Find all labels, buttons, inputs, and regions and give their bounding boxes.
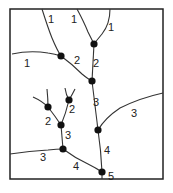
order-label: 2 bbox=[74, 54, 80, 66]
order-label: 3 bbox=[40, 151, 46, 163]
junction-node bbox=[98, 168, 105, 175]
order-label: 1 bbox=[48, 13, 54, 25]
order-label: 2 bbox=[93, 57, 99, 69]
order-label: 1 bbox=[24, 57, 30, 69]
stream-order-diagram: 1 1 1 1 2 2 3 3 2 2 3 4 3 4 5 bbox=[0, 0, 173, 193]
junction-node bbox=[59, 145, 66, 152]
order-label: 1 bbox=[108, 21, 114, 33]
order-label: 1 bbox=[71, 13, 77, 25]
order-label: 4 bbox=[73, 160, 79, 172]
order-label: 2 bbox=[45, 115, 51, 127]
junction-node bbox=[94, 126, 101, 133]
junction-node bbox=[90, 40, 97, 47]
junction-node bbox=[57, 121, 64, 128]
order-label: 2 bbox=[69, 103, 75, 115]
order-labels: 1 1 1 1 2 2 3 3 2 2 3 4 3 4 5 bbox=[24, 13, 137, 182]
order-label: 3 bbox=[131, 107, 137, 119]
order-label: 3 bbox=[93, 96, 99, 108]
order-label: 5 bbox=[108, 170, 114, 182]
boundary-frame bbox=[10, 9, 163, 179]
junction-node bbox=[44, 103, 51, 110]
order-label: 3 bbox=[65, 129, 71, 141]
junction-node bbox=[57, 52, 64, 59]
junction-node bbox=[88, 77, 95, 84]
order-label: 4 bbox=[104, 144, 110, 156]
stream-lines bbox=[10, 9, 163, 179]
